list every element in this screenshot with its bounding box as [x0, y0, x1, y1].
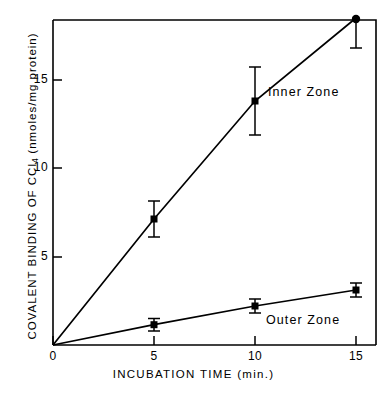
chart-figure: 15 10 5 0 5 10 15 Inner Zone Outer Zone … — [0, 0, 387, 394]
x-tick-label-10: 10 — [241, 349, 269, 363]
y-axis-title: COVALENT BINDING OF CCl4 (nmoles/mg prot… — [26, 32, 38, 339]
series-label-outer-zone: Outer Zone — [266, 313, 340, 327]
series-label-inner-zone: Inner Zone — [268, 85, 339, 99]
data-point-outer-15 — [353, 287, 360, 294]
data-point-outer-10 — [252, 303, 259, 310]
plot-frame — [53, 20, 376, 345]
y-axis-title-subscript: 4 — [30, 158, 40, 163]
series-inner-zone — [53, 15, 362, 345]
x-axis-title: INCUBATION TIME (min.) — [0, 368, 387, 380]
x-tick-label-15: 15 — [342, 349, 370, 363]
data-point-outer-5 — [151, 321, 158, 328]
y-axis-title-prefix: COVALENT BINDING OF CCl — [26, 163, 38, 340]
data-point-inner-15 — [352, 15, 360, 23]
data-point-inner-5 — [151, 216, 158, 223]
chart-plot-area — [0, 0, 387, 394]
y-axis-title-suffix: (nmoles/mg protein) — [26, 32, 38, 157]
x-axis-ticks — [53, 336, 356, 345]
x-tick-label-0: 0 — [39, 349, 67, 363]
y-axis-title-container: COVALENT BINDING OF CCl4 (nmoles/mg prot… — [22, 0, 42, 376]
x-tick-label-5: 5 — [140, 349, 168, 363]
data-point-inner-10 — [252, 98, 259, 105]
y-axis-ticks — [53, 80, 62, 257]
